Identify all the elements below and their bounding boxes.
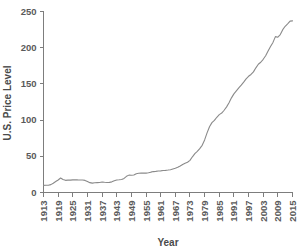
price-level-series-line [44,21,293,185]
x-tick-label: 1967 [170,201,181,222]
x-tick-label: 1943 [111,201,122,222]
x-tick-label: 1949 [126,201,137,222]
y-tick-label: 200 [21,42,37,53]
x-tick-label: 1973 [184,201,195,222]
y-tick-label: 0 [31,187,36,198]
y-tick-label: 250 [21,6,37,17]
x-tick-label: 2009 [272,201,283,222]
x-tick-label: 1961 [155,200,166,222]
x-tick-label: 2015 [287,200,298,222]
x-axis-tick-labels: 1913191919251931193719431949195519611967… [38,200,298,222]
x-tick-label: 1985 [214,200,225,222]
x-tick-label: 1919 [53,201,64,222]
y-tick-label: 150 [21,78,37,89]
x-tick-label: 1931 [82,200,93,222]
x-tick-label: 1913 [38,201,49,222]
x-tick-label: 1979 [199,201,210,222]
chart-container: 050100150200250 191319191925193119371943… [0,0,304,251]
y-axis-ticks [40,12,44,193]
x-tick-label: 1997 [243,201,254,222]
y-axis-title: U.S. Price Level [2,65,13,140]
x-tick-label: 1991 [228,200,239,222]
x-tick-label: 2003 [258,201,269,222]
y-tick-label: 100 [21,114,37,125]
x-tick-label: 1925 [67,200,78,222]
x-axis-ticks [44,193,293,197]
y-axis-tick-labels: 050100150200250 [21,6,37,198]
x-axis-title: Year [157,237,178,248]
y-tick-label: 50 [26,150,37,161]
line-chart: 050100150200250 191319191925193119371943… [0,0,304,251]
x-tick-label: 1955 [141,200,152,222]
x-tick-label: 1937 [97,201,108,222]
